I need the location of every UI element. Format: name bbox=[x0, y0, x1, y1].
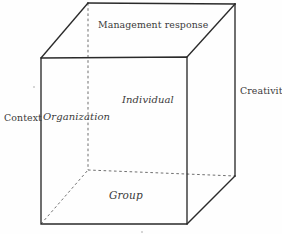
label-creativity-axis: Creativity bbox=[240, 86, 282, 95]
hidden-edge-bottom-left-diagonal bbox=[41, 170, 88, 224]
label-organization: Organization bbox=[43, 112, 110, 122]
edge-back-top bbox=[88, 3, 235, 4]
hidden-edge-back-bottom-horizontal bbox=[88, 170, 235, 176]
label-individual: Individual bbox=[122, 95, 174, 105]
label-management-response: Management response bbox=[98, 20, 208, 29]
label-context-axis: Context bbox=[4, 113, 42, 122]
cube-diagram-figure: Management response Creativity Context O… bbox=[0, 0, 282, 234]
edge-front-bottom-right-to-back-bottom-right bbox=[187, 176, 235, 224]
label-group: Group bbox=[109, 190, 143, 201]
scan-speck-left bbox=[33, 86, 35, 88]
edge-front-top-left-to-back-top-left bbox=[41, 3, 88, 58]
edge-front-top-right-to-back-top-right bbox=[187, 4, 235, 57]
scan-speck-bottom bbox=[141, 231, 143, 233]
